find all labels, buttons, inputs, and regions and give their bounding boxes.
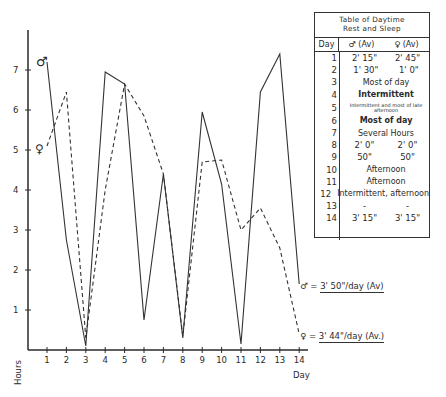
table-body: 12' 15"2' 45"21' 30"1' 0"3Most of day4In…	[315, 52, 429, 240]
row-combined-value: Intermittent, afternoon	[333, 189, 429, 198]
row-values: 1' 30"1' 0"	[339, 65, 429, 75]
male-average-value: 3' 50"/day (Av)	[320, 281, 383, 293]
x-tick-label: 7	[161, 355, 166, 365]
row-combined-value: Afternoon	[339, 177, 429, 186]
row-day: 11	[315, 177, 339, 187]
row-male-value: -	[363, 201, 366, 211]
table-row: 3Most of day	[315, 76, 429, 88]
table-row: 5Intermittent and most of late afternoon	[315, 101, 429, 115]
table-row: 12' 15"2' 45"	[315, 52, 429, 64]
male-symbol: ♂	[300, 281, 308, 291]
y-tick-label: 2	[13, 265, 18, 275]
table-row: 12Intermittent, afternoon	[315, 188, 429, 200]
x-tick-label: 1	[44, 355, 49, 365]
male-series-line	[47, 54, 299, 346]
table-row: 4Intermittent	[315, 89, 429, 101]
table-row: 950"50"	[315, 151, 429, 163]
female-average-value: 3' 44"/day (Av.)	[319, 331, 384, 343]
header-female: ♀ (Av)	[384, 38, 429, 51]
female-symbol-start: ♀	[35, 142, 44, 156]
table-row: 11Afternoon	[315, 176, 429, 188]
row-day: 14	[315, 213, 339, 223]
row-combined-value: Intermittent and most of late afternoon	[339, 103, 429, 113]
row-day: 10	[315, 165, 339, 175]
table-row: 10Afternoon	[315, 164, 429, 176]
y-axis-label: Hours	[13, 360, 23, 385]
header-day: Day	[315, 38, 339, 51]
table-row: 7Several Hours	[315, 127, 429, 139]
rest-sleep-table: Table of Daytime Rest and Sleep Day ♂ (A…	[314, 12, 430, 238]
x-tick-label: 9	[199, 355, 204, 365]
row-values: 50"50"	[339, 152, 429, 162]
row-values: 2' 0"2' 0"	[339, 140, 429, 150]
row-combined-value: Most of day	[339, 116, 429, 125]
table-header-row: Day ♂ (Av) ♀ (Av)	[315, 38, 429, 52]
table-row: 6Most of day	[315, 115, 429, 127]
y-tick-label: 1	[13, 305, 18, 315]
row-male-value: 3' 15"	[352, 213, 377, 223]
equals-sign: =	[309, 331, 316, 341]
row-day: 13	[315, 201, 339, 211]
x-tick-label: 2	[64, 355, 69, 365]
x-tick-label: 3	[83, 355, 88, 365]
row-male-value: 1' 30"	[353, 65, 378, 75]
y-tick-label: 4	[13, 185, 18, 195]
row-day: 8	[315, 140, 339, 150]
row-female-value: 1' 0"	[399, 65, 419, 75]
row-day: 4	[315, 90, 339, 100]
x-tick-label: 4	[102, 355, 107, 365]
table-row: 82' 0"2' 0"	[315, 139, 429, 151]
y-tick-label: 6	[13, 105, 18, 115]
row-female-value: 2' 0"	[398, 140, 418, 150]
row-values: --	[339, 201, 429, 211]
x-tick-label: 11	[236, 355, 247, 365]
x-tick-label: 14	[294, 355, 305, 365]
row-combined-value: Afternoon	[339, 165, 429, 174]
row-day: 9	[315, 152, 339, 162]
table-row: 13--	[315, 200, 429, 212]
row-female-value: 50"	[400, 152, 415, 162]
female-symbol: ♀	[300, 331, 306, 341]
row-day: 3	[315, 77, 339, 87]
row-male-value: 2' 0"	[355, 140, 375, 150]
row-combined-value: Intermittent	[339, 90, 429, 99]
female-average-annotation: ♀ = 3' 44"/day (Av.)	[300, 331, 384, 341]
row-day: 2	[315, 65, 339, 75]
x-tick-label: 13	[274, 355, 285, 365]
row-day: 6	[315, 116, 339, 126]
row-values: 3' 15"3' 15"	[339, 213, 429, 223]
table-title-line2: Rest and Sleep	[315, 24, 429, 33]
row-combined-value: Most of day	[339, 78, 429, 87]
y-tick-label: 7	[13, 65, 18, 75]
x-tick-label: 5	[122, 355, 127, 365]
row-female-value: -	[406, 201, 409, 211]
axes	[28, 30, 308, 350]
female-series-line	[47, 84, 299, 338]
row-male-value: 50"	[357, 152, 372, 162]
male-symbol-start: ♂	[36, 54, 48, 69]
table-row: 143' 15"3' 15"	[315, 212, 429, 224]
column-divider	[339, 52, 340, 240]
x-tick-label: 6	[141, 355, 146, 365]
y-tick-label: 5	[13, 145, 18, 155]
table-title-line1: Table of Daytime	[315, 15, 429, 24]
row-combined-value: Several Hours	[339, 129, 429, 138]
y-tick-label: 3	[13, 225, 18, 235]
row-day: 1	[315, 53, 339, 63]
equals-sign: =	[310, 281, 317, 291]
x-tick-label: 12	[255, 355, 266, 365]
row-female-value: 3' 15"	[395, 213, 420, 223]
row-values: 2' 15"2' 45"	[339, 53, 429, 63]
row-day: 7	[315, 128, 339, 138]
table-title: Table of Daytime Rest and Sleep	[315, 13, 429, 38]
male-average-annotation: ♂ = 3' 50"/day (Av)	[300, 281, 384, 291]
table-row: 21' 30"1' 0"	[315, 64, 429, 76]
row-day: 12	[315, 189, 333, 199]
row-day: 5	[315, 103, 339, 113]
x-tick-label: 10	[216, 355, 227, 365]
header-male: ♂ (Av)	[339, 38, 384, 51]
x-axis-label: Day	[293, 370, 310, 380]
row-female-value: 2' 45"	[395, 53, 420, 63]
x-tick-label: 8	[180, 355, 185, 365]
row-male-value: 2' 15"	[352, 53, 377, 63]
